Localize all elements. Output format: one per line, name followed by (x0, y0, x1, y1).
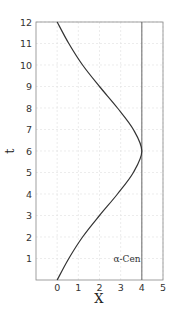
y-tick-label: 9 (26, 81, 32, 92)
y-axis-label: t (2, 148, 17, 154)
y-tick-label: 11 (20, 38, 32, 49)
x-tick-label: 0 (54, 282, 60, 293)
y-tick-label: 3 (26, 210, 32, 221)
y-tick-label: 7 (26, 124, 32, 135)
x-tick-label: 1 (75, 282, 81, 293)
grid (36, 22, 163, 280)
x-tick-label: 5 (160, 282, 166, 293)
axis-ticks: 012345123456789101112 (20, 17, 166, 294)
chart: 012345123456789101112 α-Cen X t (0, 0, 175, 316)
y-tick-label: 2 (26, 232, 32, 243)
x-tick-label: 4 (139, 282, 145, 293)
y-tick-label: 12 (20, 17, 32, 28)
y-tick-label: 4 (26, 189, 32, 200)
x-axis-label: X (94, 291, 104, 306)
y-tick-label: 6 (26, 146, 32, 157)
y-tick-label: 5 (26, 167, 32, 178)
x-tick-label: 3 (118, 282, 124, 293)
y-tick-label: 1 (26, 253, 32, 264)
alpha-cen-label: α-Cen (113, 254, 140, 264)
y-tick-label: 8 (26, 103, 32, 114)
y-tick-label: 10 (20, 60, 32, 71)
